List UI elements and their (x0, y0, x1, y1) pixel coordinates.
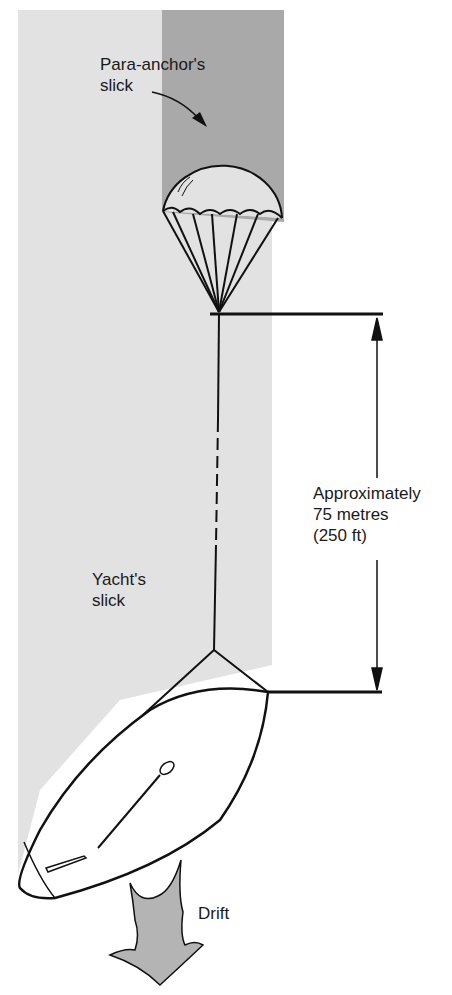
drift-arrow-icon (110, 860, 203, 985)
distance-label: Approximately 75 metres (250 ft) (313, 483, 421, 546)
yacht-slick-label: Yacht's slick (92, 569, 146, 611)
drift-label: Drift (198, 903, 229, 924)
para-anchor-slick-label: Para-anchor's slick (100, 54, 205, 96)
rode-line (218, 314, 219, 420)
